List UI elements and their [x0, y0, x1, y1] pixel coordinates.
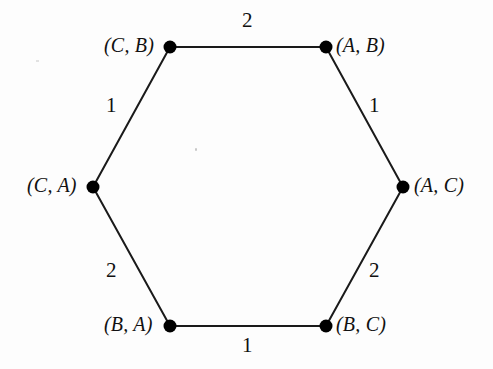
edge-weight-BA-CA: 2 — [106, 258, 117, 283]
vertex-dot-AC — [397, 181, 410, 194]
vertex-label-BA: (B, A) — [104, 313, 153, 336]
edge-BA-CA — [93, 187, 170, 326]
vertex-label-AB: (A, B) — [336, 34, 385, 57]
vertex-label-BC: (B, C) — [336, 313, 386, 336]
edge-AC-BC — [326, 187, 403, 326]
edge-weight-CA-CB: 1 — [106, 93, 117, 118]
scan-speck — [195, 148, 197, 151]
edge-weight-AB-AC: 1 — [369, 93, 380, 118]
vertex-label-AC: (A, C) — [414, 174, 464, 197]
vertex-label-CB: (C, B) — [104, 34, 154, 57]
vertex-label-CA: (C, A) — [27, 174, 77, 197]
edge-weight-BC-BA: 1 — [242, 333, 253, 358]
vertices-group — [87, 41, 410, 333]
edges-group — [93, 47, 403, 326]
vertex-dot-BC — [320, 320, 333, 333]
figure-canvas: (C, B) (A, B) (A, C) (B, C) (B, A) (C, A… — [0, 0, 493, 369]
vertex-dot-CA — [87, 181, 100, 194]
edge-weight-CB-AB: 2 — [242, 8, 253, 33]
edge-AB-AC — [326, 47, 403, 187]
vertex-dot-BA — [164, 320, 177, 333]
edge-CA-CB — [93, 47, 170, 187]
vertex-dot-AB — [320, 41, 333, 54]
scan-speck-secondary — [36, 60, 39, 62]
edge-weight-AC-BC: 2 — [369, 258, 380, 283]
vertex-dot-CB — [164, 41, 177, 54]
